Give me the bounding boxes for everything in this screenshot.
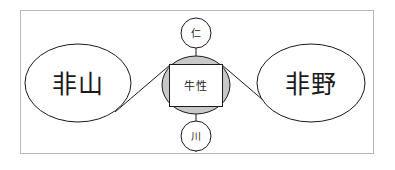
node-left-label: 非山 (52, 70, 104, 99)
diagram-canvas: 非山 非野 牛性 仁 川 (0, 0, 395, 170)
node-right-label: 非野 (285, 70, 337, 99)
node-center-label: 牛性 (184, 79, 208, 93)
node-bottom-label: 川 (191, 131, 201, 142)
node-top-label: 仁 (191, 28, 201, 39)
diagram-figure: 非山 非野 牛性 仁 川 (0, 0, 395, 170)
